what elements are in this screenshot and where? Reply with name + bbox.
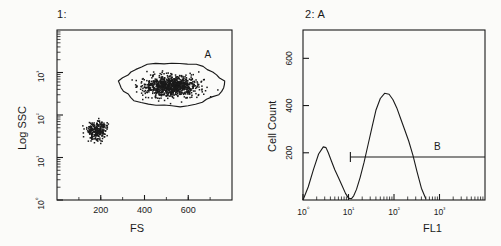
svg-text:B: B [434, 141, 441, 152]
svg-text:200: 200 [93, 205, 108, 215]
scatter-x-axis-label: FS [130, 222, 144, 234]
flow-cytometry-figure: 1: 10⁰10¹10²10³200400600A FS Log SSC 2: … [0, 0, 501, 246]
histogram-panel: 2: A 20040060010⁰10¹10²10³B FL1 Cell Cou… [250, 0, 501, 246]
svg-text:A: A [205, 49, 212, 60]
svg-text:400: 400 [284, 98, 294, 112]
scatter-plot-canvas: 10⁰10¹10²10³200400600A [0, 0, 250, 246]
svg-text:10²: 10² [388, 205, 400, 217]
histogram-y-axis-label: Cell Count [266, 101, 278, 152]
svg-text:600: 600 [181, 205, 196, 215]
svg-text:10³: 10³ [34, 71, 46, 83]
svg-text:10¹: 10¹ [343, 205, 355, 217]
scatter-panel: 1: 10⁰10¹10²10³200400600A FS Log SSC [0, 0, 250, 246]
svg-text:200: 200 [284, 145, 294, 159]
histogram-plot-canvas: 20040060010⁰10¹10²10³B [250, 0, 501, 246]
svg-text:10⁰: 10⁰ [297, 205, 309, 217]
svg-text:10²: 10² [34, 113, 46, 125]
svg-text:600: 600 [284, 51, 294, 65]
svg-text:10⁰: 10⁰ [34, 197, 46, 209]
scatter-y-axis-label: Log SSC [16, 106, 28, 150]
svg-text:10³: 10³ [434, 205, 446, 217]
svg-text:10¹: 10¹ [34, 156, 46, 168]
svg-text:400: 400 [137, 205, 152, 215]
histogram-x-axis-label: FL1 [423, 222, 442, 234]
